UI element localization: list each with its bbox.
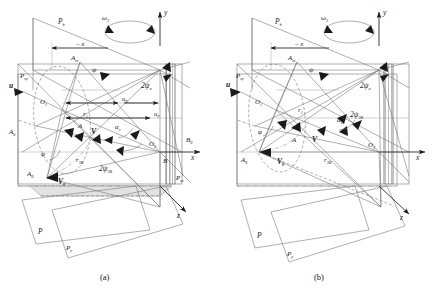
panel-a: Ph Pxy Pxz P Py ω3 y x z – x O1 O3 Am Ah… [8,8,200,282]
axis-z-b [379,186,409,214]
omega-arrow-left-b [324,25,333,33]
label-phi-a: φ [41,150,45,158]
label-psi-a: ψ [92,66,97,74]
label-axis-y-a: y [163,8,168,17]
vec-A-arrow-b [291,122,301,132]
vec-r-arrow-b [277,120,287,130]
label-axis-y-b: y [382,8,387,17]
label-negx-b: – x [294,40,304,48]
label-Py-b: Py [286,250,293,259]
label-B-a: B [163,157,168,165]
label-Pxy-a: Pxy [19,72,28,81]
label-alphac-a: αc [115,123,121,132]
omega-arrow-right-b [365,25,374,34]
label-O1-b: O1 [255,98,262,107]
label-uF-a: uF [154,110,160,119]
label-axis-x-a: x [190,153,195,162]
label-Py-a: Py [65,244,72,253]
label-psi-b: ψ [309,66,314,74]
caption-b: (b) [314,272,324,282]
figure-container: Ph Pxy Pxz P Py ω3 y x z – x O1 O3 Am Ah… [0,0,439,295]
label-vec-V0-b: V0 [277,157,285,167]
axis-z-a [160,186,186,212]
label-uE-a: uE [122,95,128,104]
label-A-a: A [77,122,83,129]
label-axis-x-b: x [415,153,420,162]
label-A0-b: A0 [240,156,248,165]
label-Am-b: Am [287,54,295,63]
label-negx-a: – x [75,40,85,48]
label-vec-V-b: V [312,135,318,144]
hatched-body-b [384,64,393,184]
label-axis-z-b: z [399,213,403,222]
label-phi-b: φ [258,128,262,136]
label-r1-a: r1 [83,110,88,119]
label-P-a: P [37,227,43,236]
label-2psi3B-a: 2ψ3B [99,164,113,174]
vec-V2-arrow-a [104,136,113,144]
label-axis-z-a: z [176,211,180,220]
diagram-svg: Ph Pxy Pxz P Py ω3 y x z – x O1 O3 Am Ah… [0,0,439,295]
vec-down-arrow-a [116,146,124,156]
vec-u-arrow-a [14,88,24,96]
omega-arrow-left-a [105,25,114,33]
vec-psi-arrow-a [100,72,110,81]
vec-alpha-arrow-b [352,120,362,130]
label-vec-u-b: u [226,80,230,89]
label-vec-u-a: u [9,81,13,90]
omega-arrow-right-a [146,25,155,34]
vec-u-arrow-b [230,88,241,97]
label-Pxy-b: Pxy [235,72,244,81]
label-omega-a: ω3 [102,14,109,23]
label-2psia-a: 2ψa [141,81,152,91]
label-Ah-a: Ah [8,128,15,137]
panel-b: Ph Pxy P Py ω3 y x z – x O1 O3 Am A0 A u… [226,8,425,282]
label-B0-a: B0 [186,136,193,145]
label-omega-b: ω3 [321,14,328,23]
label-A-b: A [291,136,297,143]
vec-r-arrow-a [64,128,74,138]
label-P-b: P [256,231,262,240]
vec-dn-arrow-b [339,126,348,136]
label-O3-a: O3 [149,140,156,149]
label-Am-a: Am [70,54,78,63]
label-2psia-b: 2ψa [360,81,371,91]
label-O1-a: O1 [40,98,47,107]
label-vec-V0-a: V0 [58,177,66,187]
vec-A-arrow-a [74,132,84,142]
label-r1-b: r1 [298,106,303,115]
label-A0-a: A0 [26,170,34,179]
caption-a: (a) [100,272,110,282]
fill-region-a [30,186,172,196]
outer-box-b [237,64,409,184]
label-r3B-a: r3B [76,156,84,165]
label-2psi3B-b: 2ψ3B [350,110,364,120]
label-O3-b: O3 [368,141,375,150]
vec-alpha-arrow-a [130,130,140,140]
vec-psi-arrow-b [319,72,329,81]
label-Ph-a: Ph [57,17,65,27]
label-Ph-b: Ph [274,17,282,27]
